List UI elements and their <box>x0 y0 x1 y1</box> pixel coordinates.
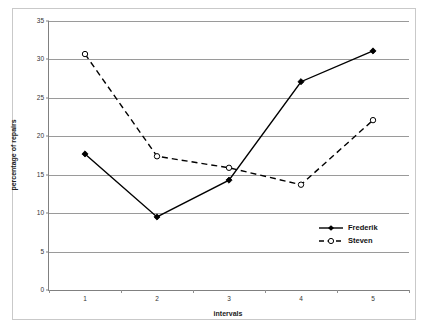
series-line-frederik <box>85 51 373 217</box>
x-tick-label: 5 <box>371 296 375 303</box>
y-tick-mark <box>46 21 49 22</box>
y-tick-mark <box>46 59 49 60</box>
legend-swatch-steven <box>318 236 344 246</box>
chart-legend: FrederikSteven <box>318 221 378 247</box>
y-tick-label: 30 <box>37 56 44 63</box>
y-tick-label: 35 <box>37 18 44 25</box>
x-tick-label: 1 <box>83 296 87 303</box>
plot-area: 0510152025303512345 <box>48 21 409 291</box>
legend-item-frederik: Frederik <box>318 221 378 234</box>
legend-marker-steven <box>328 238 333 243</box>
x-tick-mark <box>337 290 338 293</box>
data-point-frederik-5 <box>370 48 376 54</box>
x-tick-mark <box>49 290 50 293</box>
x-axis-title: intervals <box>48 310 408 317</box>
x-tick-mark <box>409 290 410 293</box>
x-tick-label: 2 <box>155 296 159 303</box>
y-tick-label: 15 <box>37 171 44 178</box>
data-point-steven-4 <box>298 182 303 187</box>
y-tick-label: 10 <box>37 210 44 217</box>
y-tick-label: 5 <box>40 248 44 255</box>
y-axis-title: percentage of repairs <box>10 119 17 190</box>
x-tick-label: 4 <box>299 296 303 303</box>
chart-page: 0510152025303512345 intervals percentage… <box>0 0 423 332</box>
y-tick-mark <box>46 213 49 214</box>
y-tick-label: 0 <box>40 287 44 294</box>
y-tick-label: 20 <box>37 133 44 140</box>
y-tick-mark <box>46 251 49 252</box>
x-tick-mark <box>265 290 266 293</box>
y-tick-mark <box>46 174 49 175</box>
x-tick-label: 3 <box>227 296 231 303</box>
data-point-steven-3 <box>226 165 231 170</box>
series-layer <box>49 21 409 290</box>
legend-label-frederik: Frederik <box>348 224 378 232</box>
legend-label-steven: Steven <box>348 237 373 245</box>
y-tick-mark <box>46 97 49 98</box>
y-tick-label: 25 <box>37 95 44 102</box>
data-point-steven-1 <box>82 51 87 56</box>
data-point-steven-2 <box>154 154 159 159</box>
y-tick-mark <box>46 136 49 137</box>
legend-marker-frederik <box>328 225 334 231</box>
x-tick-mark <box>121 290 122 293</box>
legend-item-steven: Steven <box>318 234 378 247</box>
legend-swatch-frederik <box>318 223 344 233</box>
x-tick-mark <box>193 290 194 293</box>
data-point-steven-5 <box>370 117 375 122</box>
